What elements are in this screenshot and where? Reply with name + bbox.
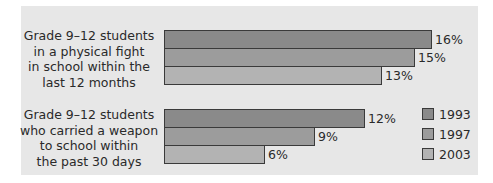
legend-label: 2003 xyxy=(439,147,471,162)
legend-swatch-1993 xyxy=(422,108,434,120)
label-line: last 12 months xyxy=(14,75,164,91)
value-label: 13% xyxy=(385,67,413,84)
bar-2003-group-1 xyxy=(164,66,382,85)
label-line: who carried a weapon xyxy=(14,123,164,139)
legend-item-1993: 1993 xyxy=(422,104,471,124)
label-line: in school within the xyxy=(14,59,164,75)
value-label: 9% xyxy=(318,128,338,145)
label-line: Grade 9–12 students xyxy=(14,107,164,123)
legend-swatch-1997 xyxy=(422,128,434,140)
value-label: 15% xyxy=(418,49,446,66)
label-line: Grade 9–12 students xyxy=(14,28,164,44)
legend: 1993 1997 2003 xyxy=(422,104,471,164)
bar-1993-group-2 xyxy=(164,109,365,128)
label-line: the past 30 days xyxy=(14,154,164,170)
bar-1993-group-1 xyxy=(164,30,432,49)
value-label: 6% xyxy=(268,146,288,163)
value-label: 12% xyxy=(368,110,396,127)
label-line: to school within xyxy=(14,138,164,154)
legend-label: 1997 xyxy=(439,127,471,142)
bar-1997-group-2 xyxy=(164,127,315,146)
legend-item-1997: 1997 xyxy=(422,124,471,144)
legend-item-2003: 2003 xyxy=(422,144,471,164)
bar-2003-group-2 xyxy=(164,145,265,164)
bar-1997-group-1 xyxy=(164,48,415,67)
legend-label: 1993 xyxy=(439,107,471,122)
label-line: in a physical fight xyxy=(14,44,164,60)
category-label-weapons: Grade 9–12 students who carried a weapon… xyxy=(14,107,164,169)
category-label-fights: Grade 9–12 students in a physical fight … xyxy=(14,28,164,90)
value-label: 16% xyxy=(435,31,463,48)
legend-swatch-2003 xyxy=(422,148,434,160)
